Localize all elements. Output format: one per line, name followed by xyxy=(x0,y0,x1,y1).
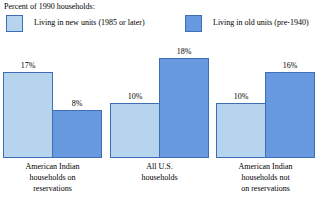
category-label-american-indian-reservations: American Indian households on reservatio… xyxy=(0,161,105,194)
legend-label-new-units: Living in new units (1985 or later) xyxy=(34,18,145,28)
bar-g2-old-units xyxy=(265,72,315,158)
legend-item-new-units: Living in new units (1985 or later) xyxy=(6,14,145,32)
bar-value-g0-new: 17% xyxy=(3,61,53,71)
category-label-line: American Indian xyxy=(0,161,105,172)
category-label-line: households on xyxy=(0,172,105,183)
category-label-line: All U.S. xyxy=(107,161,212,172)
bar-group-all-us-households: 10% 18% xyxy=(110,36,210,158)
category-label-all-us-households: All U.S. households xyxy=(107,161,212,183)
bar-value-g1-old: 18% xyxy=(159,47,209,57)
legend-swatch-new-units-icon xyxy=(6,15,23,32)
plot-area: 17% 8% 10% 18% 10% 16% xyxy=(0,36,318,158)
bar-g0-new-units xyxy=(3,72,53,158)
bar-value-g2-old: 16% xyxy=(265,61,315,71)
bar-g1-new-units xyxy=(110,103,160,158)
category-label-line: reservations xyxy=(0,183,105,194)
legend-item-old-units: Living in old units (pre-1940) xyxy=(185,14,309,32)
category-label-line: American Indian xyxy=(213,161,318,172)
legend-swatch-old-units-icon xyxy=(185,15,202,32)
bar-g2-new-units xyxy=(216,103,266,158)
category-axis-labels: American Indian households on reservatio… xyxy=(0,161,318,203)
bar-group-american-indian-not-reservations: 10% 16% xyxy=(216,36,315,158)
bar-g1-old-units xyxy=(159,58,209,158)
category-label-american-indian-not-reservations: American Indian households not on reserv… xyxy=(213,161,318,194)
legend-title: Percent of 1990 households: xyxy=(4,2,95,12)
legend-label-old-units: Living in old units (pre-1940) xyxy=(213,18,309,28)
grouped-bar-chart: Percent of 1990 households: Living in ne… xyxy=(0,0,318,203)
category-label-line: households not xyxy=(213,172,318,183)
baseline xyxy=(0,158,318,159)
bar-g0-old-units xyxy=(52,110,102,158)
bar-value-g0-old: 8% xyxy=(52,99,102,109)
bar-value-g1-new: 10% xyxy=(110,92,160,102)
bar-group-american-indian-reservations: 17% 8% xyxy=(3,36,102,158)
category-label-line: households xyxy=(107,172,212,183)
category-label-line: on reservations xyxy=(213,183,318,194)
bar-value-g2-new: 10% xyxy=(216,92,266,102)
